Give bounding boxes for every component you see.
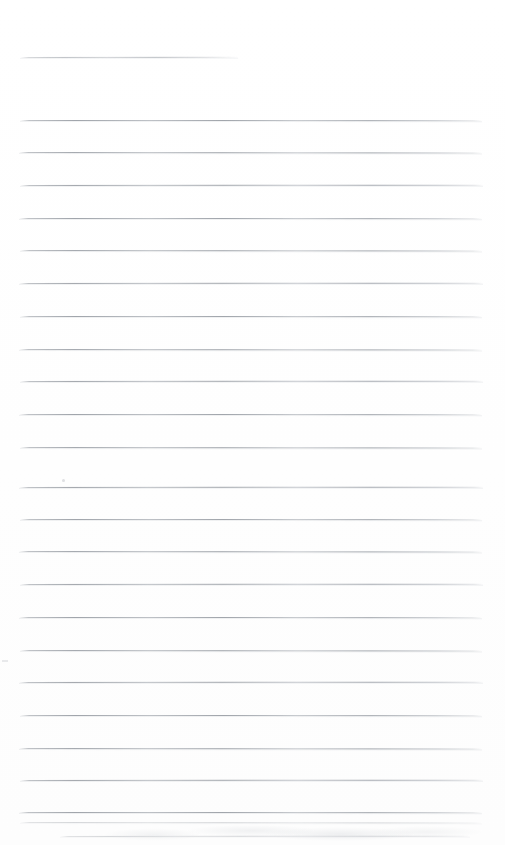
edge-speck-artifact xyxy=(2,660,8,662)
ruled-line xyxy=(20,715,482,716)
ruled-line xyxy=(20,584,483,585)
ruled-line xyxy=(19,283,483,284)
ruled-line xyxy=(19,551,482,552)
ruled-line xyxy=(20,57,238,58)
ruled-line xyxy=(19,487,483,488)
ruled-line xyxy=(19,748,482,749)
ruled-line xyxy=(19,152,482,153)
ruled-line xyxy=(20,120,482,121)
ruled-line xyxy=(19,414,482,415)
ruled-line xyxy=(60,836,470,837)
paper-background xyxy=(0,0,505,845)
ruled-line xyxy=(20,381,483,382)
ruled-line xyxy=(20,780,483,781)
ruled-line xyxy=(19,349,482,350)
ruled-line xyxy=(20,316,482,317)
paper-speck-artifact xyxy=(62,479,65,482)
ruled-line xyxy=(20,822,482,823)
ruled-line xyxy=(20,447,482,448)
ruled-line xyxy=(20,185,483,186)
ruled-line xyxy=(19,218,482,219)
ruled-line xyxy=(20,650,482,651)
ruled-line xyxy=(19,682,483,683)
ruled-line xyxy=(20,250,482,251)
scanned-page xyxy=(0,0,505,845)
ruled-line xyxy=(19,812,482,813)
ruled-line xyxy=(19,617,482,618)
ruled-line xyxy=(20,519,482,520)
